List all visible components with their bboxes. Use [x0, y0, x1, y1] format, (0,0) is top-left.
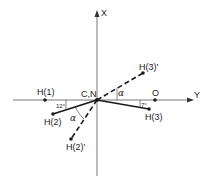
x-axis-arrow-icon — [95, 10, 100, 17]
atom-h3 — [147, 107, 151, 111]
atom-label-o: O — [152, 88, 159, 98]
angle-label-h3: 7° — [141, 102, 147, 108]
alpha-label-upper: α — [118, 88, 124, 98]
atom-o — [153, 98, 157, 102]
atom-label-h2: H(2) — [44, 117, 62, 127]
atom-label-h3: H(3) — [145, 112, 163, 122]
y-axis-arrow-icon — [187, 98, 194, 103]
x-axis-label: X — [101, 8, 107, 18]
molecular-geometry-diagram: X Y C,N H(1) H(2) H(3) H(2)' H(3)' O 12°… — [0, 0, 208, 180]
atom-label-h1: H(1) — [37, 87, 55, 97]
origin-label: C,N — [81, 89, 97, 99]
atom-label-h2-prime: H(2)' — [66, 142, 85, 152]
y-axis-label: Y — [194, 90, 200, 100]
atom-h2 — [51, 112, 55, 116]
atom-label-h3-prime: H(3)' — [139, 62, 158, 72]
atom-h1 — [43, 98, 47, 102]
alpha-label-lower: α — [70, 113, 76, 123]
angle-label-h2: 12° — [56, 103, 66, 109]
angle-arc-lower — [75, 107, 84, 119]
atom-h2-prime — [69, 137, 73, 141]
